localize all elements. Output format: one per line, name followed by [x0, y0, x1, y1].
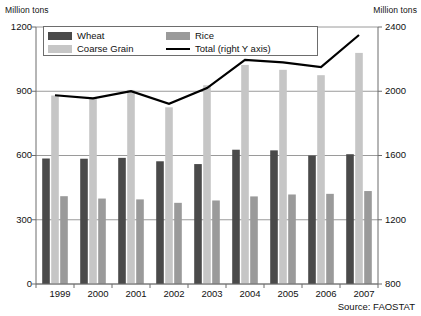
bar-wheat-2000 — [80, 159, 88, 284]
bar-wheat-2003 — [194, 164, 202, 284]
legend-entry-rice: Rice — [166, 30, 214, 41]
grain-production-chart: Million tons Million tons 1200 900 600 3… — [0, 0, 421, 316]
legend-row-1: Wheat Rice — [48, 29, 313, 42]
bar-wheat-2001 — [118, 158, 126, 284]
legend-label-coarse-grain: Coarse Grain — [77, 43, 134, 54]
bar-coarse-grain-2007 — [355, 53, 363, 284]
bar-wheat-1999 — [42, 159, 50, 285]
x-tick-2004: 2004 — [230, 288, 270, 299]
bar-wheat-2004 — [232, 150, 240, 284]
bar-rice-2000 — [98, 199, 106, 284]
x-tick-2000: 2000 — [78, 288, 118, 299]
coarse-grain-color-swatch — [48, 45, 72, 53]
bar-rice-2007 — [364, 191, 372, 284]
bar-rice-2001 — [136, 199, 144, 284]
source-note: Source: FAOSTAT — [338, 301, 415, 312]
x-tick-2002: 2002 — [154, 288, 194, 299]
legend-entry-wheat: Wheat — [48, 30, 166, 41]
legend-entry-total: Total (right Y axis) — [166, 43, 271, 54]
bar-rice-2003 — [212, 200, 220, 284]
legend-entry-coarse-grain: Coarse Grain — [48, 43, 166, 54]
x-tick-2007: 2007 — [344, 288, 384, 299]
bar-rice-2005 — [288, 194, 296, 284]
rice-color-swatch — [166, 32, 190, 40]
bar-rice-2006 — [326, 194, 334, 284]
bar-wheat-2007 — [346, 154, 354, 284]
legend-label-rice: Rice — [195, 30, 214, 41]
bar-wheat-2005 — [270, 150, 278, 284]
bar-coarse-grain-1999 — [51, 96, 59, 284]
x-tick-2001: 2001 — [116, 288, 156, 299]
bar-coarse-grain-2005 — [279, 70, 287, 284]
bar-wheat-2006 — [308, 156, 316, 285]
x-tick-2003: 2003 — [192, 288, 232, 299]
bar-coarse-grain-2000 — [89, 98, 97, 284]
wheat-color-swatch — [48, 32, 72, 40]
bar-rice-2002 — [174, 203, 182, 284]
bar-coarse-grain-2004 — [241, 65, 249, 284]
x-tick-2006: 2006 — [306, 288, 346, 299]
bar-coarse-grain-2002 — [165, 107, 173, 284]
x-tick-1999: 1999 — [40, 288, 80, 299]
legend-row-2: Coarse Grain Total (right Y axis) — [48, 42, 313, 55]
x-tick-2005: 2005 — [268, 288, 308, 299]
bar-rice-2004 — [250, 196, 258, 284]
legend-label-wheat: Wheat — [77, 30, 104, 41]
legend-label-total: Total (right Y axis) — [195, 43, 271, 54]
bar-coarse-grain-2001 — [127, 90, 135, 284]
total-line-swatch — [166, 48, 190, 50]
bar-coarse-grain-2003 — [203, 85, 211, 284]
chart-legend: Wheat Rice Coarse Grain Total (right Y a… — [43, 26, 318, 56]
bar-coarse-grain-2006 — [317, 75, 325, 284]
bar-wheat-2002 — [156, 161, 164, 284]
bar-rice-1999 — [60, 196, 68, 284]
